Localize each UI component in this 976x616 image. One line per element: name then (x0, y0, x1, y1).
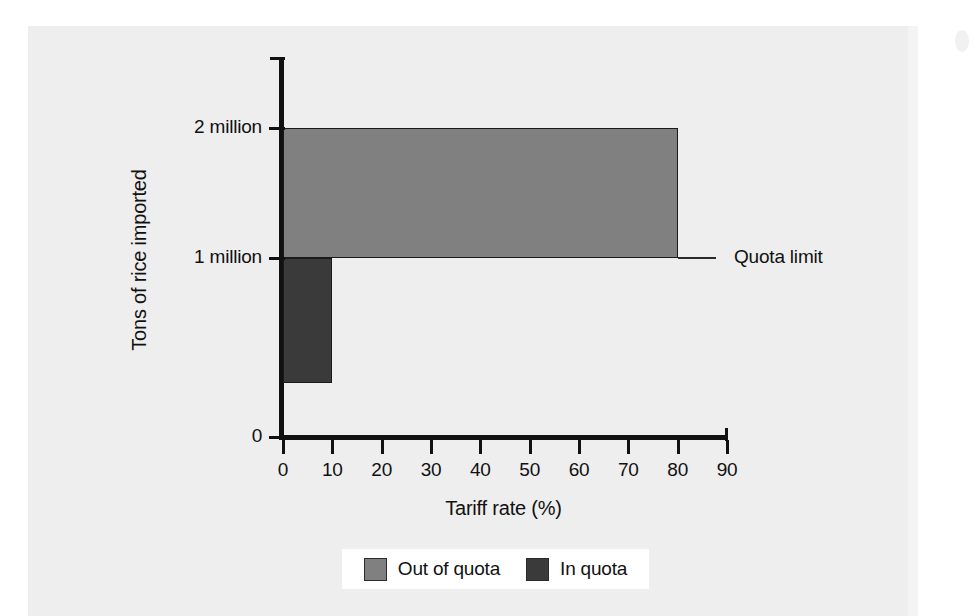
scanned-page: Quota limit 01 million2 million 01020304… (0, 0, 976, 616)
x-tick-label: 80 (658, 459, 698, 481)
y-tick-label: 0 (120, 425, 262, 447)
x-tick-label: 60 (559, 459, 599, 481)
quota-limit-label: Quota limit (734, 246, 823, 268)
x-tick-mark (726, 440, 729, 454)
x-tick-mark (331, 440, 334, 454)
x-tick-label: 70 (608, 459, 648, 481)
x-tick-mark (282, 440, 285, 454)
legend-label: In quota (560, 558, 627, 580)
x-tick-label: 0 (263, 459, 303, 481)
x-tick-label: 20 (362, 459, 402, 481)
y-tick-mark (269, 127, 285, 130)
bar-in-quota (283, 258, 332, 383)
x-tick-label: 90 (707, 459, 747, 481)
tariff-rate-quota-chart: Quota limit 01 million2 million 01020304… (0, 0, 976, 616)
x-tick-mark (627, 440, 630, 454)
x-tick-mark (677, 440, 680, 454)
x-tick-label: 50 (510, 459, 550, 481)
legend-swatch-icon (364, 558, 387, 581)
legend-item: Out of quota (364, 558, 500, 581)
bar-out-of-quota (283, 128, 678, 258)
x-tick-mark (529, 440, 532, 454)
legend-item: In quota (526, 558, 627, 581)
quota-limit-line (678, 257, 716, 259)
y-tick-label: 2 million (120, 116, 262, 138)
x-tick-label: 10 (312, 459, 352, 481)
y-axis-title: Tons of rice imported (128, 140, 151, 380)
legend-swatch-icon (526, 558, 549, 581)
x-tick-mark (430, 440, 433, 454)
chart-legend: Out of quotaIn quota (342, 549, 649, 589)
y-tick-mark (269, 257, 285, 260)
x-tick-label: 40 (460, 459, 500, 481)
x-tick-label: 30 (411, 459, 451, 481)
x-tick-mark (381, 440, 384, 454)
y-axis-top-cap (270, 57, 285, 60)
x-axis-title: Tariff rate (%) (279, 497, 728, 520)
x-tick-mark (479, 440, 482, 454)
x-axis-line (279, 435, 728, 440)
y-tick-mark (269, 436, 285, 439)
x-tick-mark (578, 440, 581, 454)
legend-label: Out of quota (398, 558, 500, 580)
